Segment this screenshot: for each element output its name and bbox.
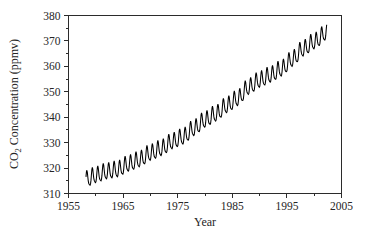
y-tick-label: 330 [43, 137, 61, 149]
x-tick-label: 1965 [112, 200, 135, 212]
x-tick-label: 1995 [275, 200, 298, 212]
chart-figure: 310320330340350360370380 195519651975198… [0, 0, 371, 239]
y-tick-label: 360 [43, 60, 61, 72]
y-tick-label: 350 [43, 86, 61, 98]
y-tick-label: 320 [43, 162, 61, 174]
y-tick-label: 380 [43, 10, 61, 22]
y-tick-label: 340 [43, 111, 61, 123]
y-axis-title-suffix: Concentration (ppmv) [7, 39, 21, 148]
x-tick-label: 1955 [57, 200, 80, 212]
x-tick-label: 1985 [221, 200, 244, 212]
y-axis-title-prefix: CO [7, 152, 21, 169]
y-tick-label: 370 [43, 35, 61, 47]
x-tick-label: 1975 [166, 200, 189, 212]
co2-concentration-line-chart: 310320330340350360370380 195519651975198… [0, 0, 371, 239]
x-axis-title: Year [194, 215, 216, 229]
y-tick-label: 310 [43, 188, 61, 200]
x-tick-label: 2005 [330, 200, 353, 212]
